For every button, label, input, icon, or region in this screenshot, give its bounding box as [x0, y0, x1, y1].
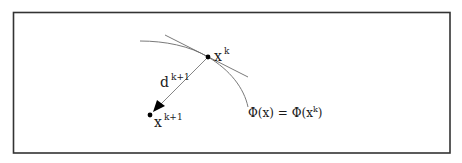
label-direction-base: d	[160, 74, 169, 90]
label-xk-base: x	[214, 48, 222, 64]
label-level-set-lhs: Φ(x)	[248, 106, 274, 120]
label-xk-sup: k	[224, 46, 229, 56]
label-level-set-rhs-post: )	[318, 106, 323, 120]
label-xk1: xk+1	[154, 114, 183, 130]
diagram-svg	[0, 0, 462, 163]
point-xk1	[148, 113, 153, 118]
label-direction: dk+1	[160, 74, 190, 90]
label-level-set-rhs-sup: k	[313, 105, 318, 114]
label-xk1-sup: k+1	[164, 112, 183, 122]
label-level-set-eq: =	[278, 106, 288, 120]
label-xk: xk	[214, 48, 229, 64]
label-direction-sup: k+1	[171, 72, 190, 82]
label-xk1-base: x	[154, 114, 162, 130]
point-xk	[206, 55, 211, 60]
label-level-set-rhs-pre: Φ(x	[292, 106, 313, 120]
diagram-frame	[14, 13, 451, 154]
level-set-curve	[140, 41, 248, 107]
label-level-set: Φ(x) = Φ(xk)	[248, 107, 323, 119]
diagram-canvas: xk dk+1 xk+1 Φ(x) = Φ(xk)	[0, 0, 462, 163]
